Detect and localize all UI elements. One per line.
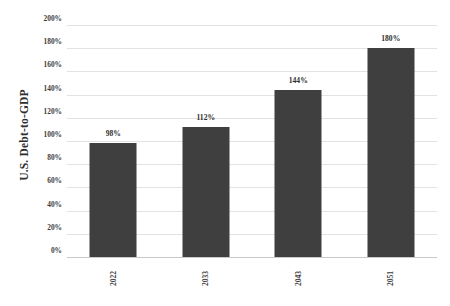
bar[interactable] (275, 90, 322, 257)
y-axis-tick-label: 60% (30, 177, 62, 185)
bar-group: 112% (160, 25, 253, 257)
bars-layer: 98%112%144%180% (67, 25, 437, 257)
axis-baseline (67, 257, 437, 258)
x-axis-tick-label: 2043 (278, 260, 318, 300)
y-axis-tick-label: 20% (30, 224, 62, 232)
bar-group: 180% (345, 25, 438, 257)
y-axis-tick-label: 120% (30, 108, 62, 116)
x-axis-tick-labels: 2022203320432051 (67, 260, 437, 304)
bar-value-label: 144% (289, 76, 308, 85)
bar-value-label: 112% (196, 113, 215, 122)
bar[interactable] (182, 127, 229, 257)
y-axis-tick-label: 160% (30, 61, 62, 69)
x-axis-tick-text: 2051 (386, 271, 395, 286)
y-axis-tick-label: 180% (30, 38, 62, 46)
y-axis-tick-label: 80% (30, 154, 62, 162)
bar[interactable] (367, 48, 414, 257)
x-axis-tick-label: 2033 (186, 260, 226, 300)
y-axis-tick-label: 0% (30, 247, 62, 255)
y-axis-tick-label: 200% (30, 15, 62, 23)
bar-chart: U.S. Debt-to-GDP 200%180%160%140%120%100… (0, 0, 450, 306)
bar-value-label: 180% (381, 34, 400, 43)
x-axis-tick-label: 2051 (371, 260, 411, 300)
y-axis-tick-label: 140% (30, 85, 62, 93)
y-axis-tick-labels: 200%180%160%140%120%100%80%60%40%20%0% (30, 19, 62, 263)
y-axis-title-label: U.S. Debt-to-GDP (18, 89, 30, 181)
bar-group: 98% (67, 25, 160, 257)
bar[interactable] (90, 143, 137, 257)
x-axis-tick-text: 2033 (201, 271, 210, 286)
x-axis-tick-text: 2022 (109, 271, 118, 286)
bar-value-label: 98% (106, 129, 121, 138)
y-axis-tick-label: 100% (30, 131, 62, 139)
y-axis-tick-label: 40% (30, 201, 62, 209)
bar-group: 144% (252, 25, 345, 257)
x-axis-tick-text: 2043 (294, 271, 303, 286)
x-axis-tick-label: 2022 (93, 260, 133, 300)
plot-area: 98%112%144%180% (67, 25, 437, 257)
